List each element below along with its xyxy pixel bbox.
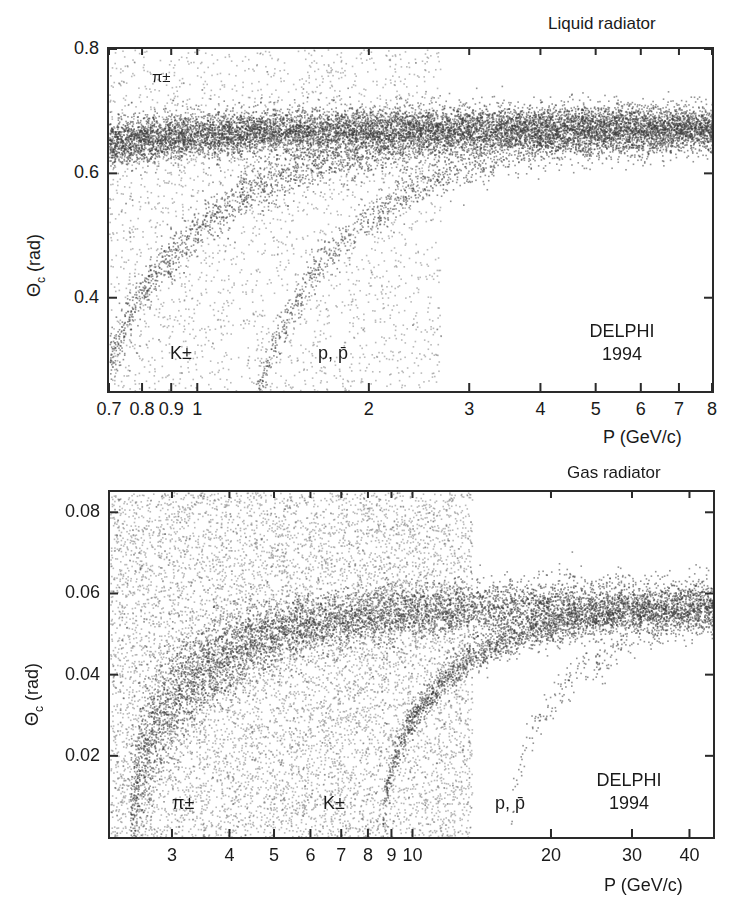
x-tick-label: 9 — [386, 845, 396, 866]
y-tick-label: 0.02 — [40, 745, 100, 766]
gas-label-experiment: DELPHI 1994 — [589, 769, 669, 815]
gas-label-pion: π± — [172, 793, 194, 814]
x-tick-label: 6 — [305, 845, 315, 866]
gas-label-kaon: K± — [323, 793, 345, 814]
x-tick-label: 40 — [679, 845, 699, 866]
gas-x-axis-label: P (GeV/c) — [604, 875, 683, 896]
x-tick-label: 20 — [541, 845, 561, 866]
y-tick-label: 0.06 — [40, 582, 100, 603]
gas-label-proton: p, p̄ — [495, 793, 525, 814]
gas-radiator-panel: Gas radiator 0.020.040.060.08 3456789102… — [0, 0, 739, 915]
gas-y-axis-label: Θc (rad) — [22, 663, 46, 726]
x-tick-label: 30 — [622, 845, 642, 866]
y-tick-label: 0.08 — [40, 501, 100, 522]
x-tick-label: 5 — [269, 845, 279, 866]
x-tick-label: 3 — [167, 845, 177, 866]
x-tick-label: 8 — [363, 845, 373, 866]
x-tick-label: 10 — [402, 845, 422, 866]
gas-plot-title: Gas radiator — [567, 463, 661, 483]
x-tick-label: 7 — [336, 845, 346, 866]
x-tick-label: 4 — [224, 845, 234, 866]
y-tick-label: 0.04 — [40, 664, 100, 685]
